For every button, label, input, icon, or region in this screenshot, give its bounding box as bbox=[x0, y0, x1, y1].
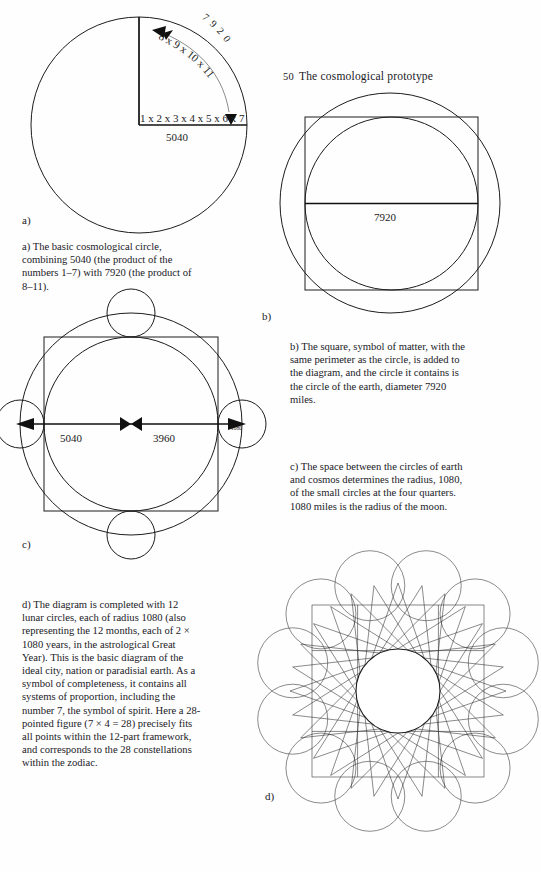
radius-value-label: 5040 bbox=[166, 131, 189, 143]
lunar-circle bbox=[468, 628, 538, 698]
segment-right-label: 3960 bbox=[153, 432, 176, 444]
lunar-circle bbox=[286, 733, 356, 803]
figure-a-label: a) bbox=[22, 214, 31, 226]
figure-b-diagram: 7920 bbox=[262, 88, 541, 318]
lunar-circle bbox=[258, 628, 328, 698]
measure-arrow-centre-right bbox=[131, 417, 142, 431]
figure-b-caption: b) The square, symbol of matter, with th… bbox=[290, 340, 470, 406]
figure-a-caption: a) The basic cosmological circle, combin… bbox=[22, 240, 192, 293]
arc-product-label: 8 x 9 x 10 x 11 bbox=[157, 30, 217, 80]
figure-c-label: c) bbox=[22, 538, 31, 550]
page-canvas: 50The cosmological prototype 8 x 9 x 1 bbox=[0, 0, 541, 872]
lunar-circle bbox=[440, 733, 510, 803]
radius-product-label: 1 x 2 x 3 x 4 x 5 x 6 x 7 bbox=[140, 112, 245, 124]
figure-b-svg: 7920 bbox=[262, 88, 541, 318]
measure-arrow-centre-left bbox=[120, 417, 131, 431]
lunar-circle bbox=[440, 579, 510, 649]
lunar-circle bbox=[391, 551, 461, 621]
lunar-circle bbox=[286, 579, 356, 649]
figure-a-diagram: 8 x 9 x 10 x 11 7 9 2 0 1 x 2 x 3 x 4 x … bbox=[0, 0, 262, 230]
figure-d-label: d) bbox=[265, 790, 274, 802]
lunar-circle bbox=[391, 761, 461, 831]
folio-number: 50 bbox=[283, 71, 294, 82]
figure-d-caption: d) The diagram is completed with 12 luna… bbox=[22, 598, 202, 770]
lunar-circle bbox=[468, 684, 538, 754]
figure-a-svg: 8 x 9 x 10 x 11 7 9 2 0 1 x 2 x 3 x 4 x … bbox=[0, 0, 262, 230]
figure-c-caption: c) The space between the circles of eart… bbox=[290, 460, 470, 513]
header-title: The cosmological prototype bbox=[299, 70, 433, 82]
moon-radius-label: 1080 bbox=[231, 425, 242, 431]
lunar-circle bbox=[335, 761, 405, 831]
figure-b-label: b) bbox=[262, 310, 271, 322]
earth-diameter-label: 7920 bbox=[374, 211, 397, 223]
figure-d-svg bbox=[255, 548, 541, 848]
lunar-circle bbox=[335, 551, 405, 621]
figure-c-svg: 5040 3960 1080 bbox=[0, 296, 262, 556]
measure-arrow-left bbox=[16, 418, 34, 430]
segment-left-label: 5040 bbox=[60, 432, 83, 444]
lunar-circle bbox=[258, 684, 328, 754]
central-white-circle bbox=[356, 649, 440, 733]
figure-c-diagram: 5040 3960 1080 bbox=[0, 296, 262, 556]
page-header: 50The cosmological prototype bbox=[283, 70, 433, 82]
figure-d-diagram bbox=[255, 548, 541, 848]
